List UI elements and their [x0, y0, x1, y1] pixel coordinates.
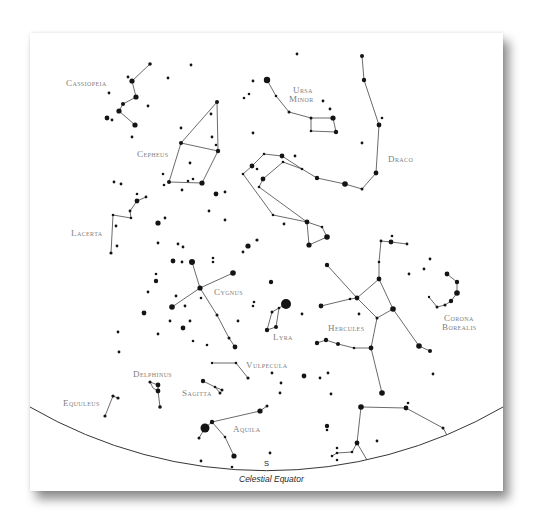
- label-ursa-minor: Minor: [289, 94, 314, 104]
- label-hercules: Hercules: [328, 323, 364, 333]
- label-equuleus: Equuleus: [63, 398, 100, 408]
- label-lyra: Lyra: [273, 332, 293, 342]
- label-lacerta: Lacerta: [71, 228, 102, 238]
- label-draco: Draco: [388, 154, 413, 164]
- label-cepheus: Cepheus: [137, 149, 168, 159]
- constellation-labels: CassiopeiaCepheusLacertaUrsaMinorDracoCy…: [0, 0, 535, 523]
- label-sagitta: Sagitta: [182, 388, 212, 398]
- south-marker: S: [264, 459, 269, 468]
- label-corona-borealis: Borealis: [442, 322, 477, 332]
- label-delphinus: Delphinus: [133, 369, 172, 379]
- label-cassiopeia: Cassiopeia: [66, 78, 107, 88]
- label-aquila: Aquila: [233, 424, 261, 434]
- celestial-equator-label: Celestial Equator: [239, 474, 304, 484]
- label-cygnus: Cygnus: [214, 287, 243, 297]
- label-vulpecula: Vulpecula: [246, 360, 287, 370]
